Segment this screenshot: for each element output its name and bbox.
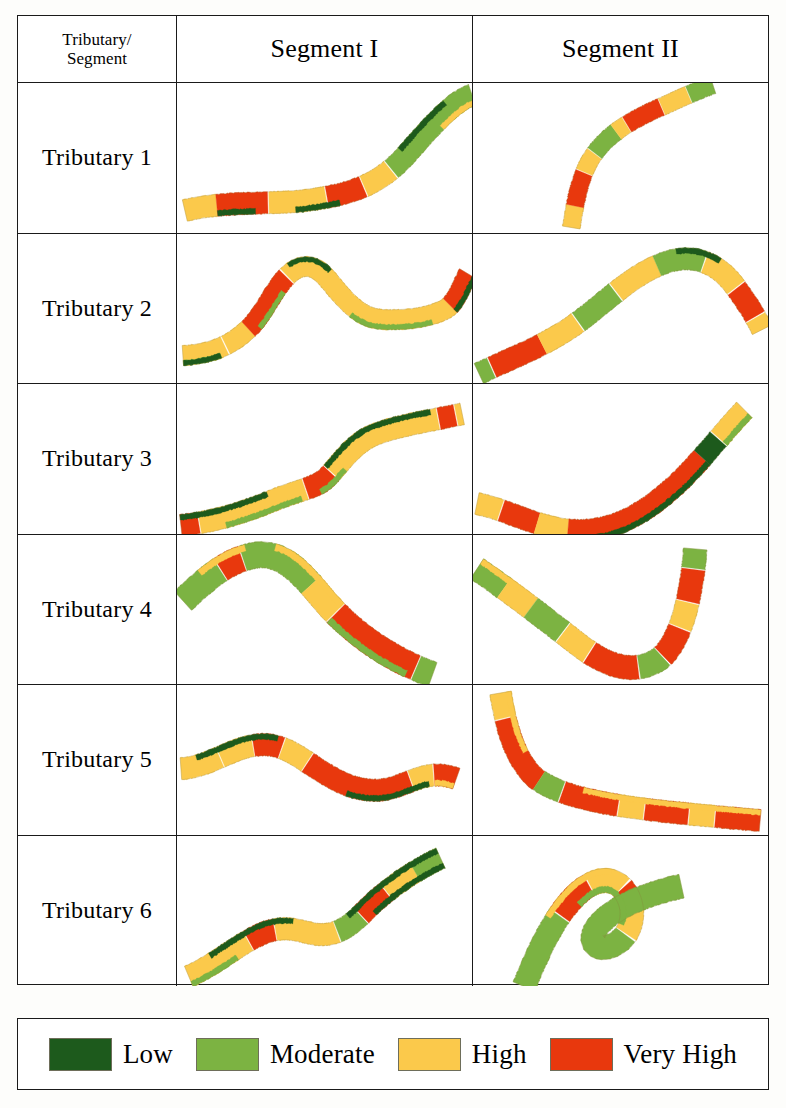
stream-band-very_high bbox=[437, 405, 457, 430]
header-corner-cell: Tributary/ Segment bbox=[18, 16, 177, 82]
legend-swatch-high bbox=[398, 1038, 461, 1071]
table-row: Tributary 6 bbox=[18, 836, 768, 987]
table-row: Tributary 5 bbox=[18, 685, 768, 836]
table-row: Tributary 2 bbox=[18, 234, 768, 385]
stream-band-very_high bbox=[495, 716, 545, 789]
stream-reach-diagram bbox=[177, 685, 472, 835]
stream-bands bbox=[180, 733, 460, 801]
diagram-cell-segment-2-row-1 bbox=[473, 83, 768, 233]
stream-band-moderate bbox=[681, 547, 707, 569]
table-header-row: Tributary/ Segment Segment I Segment II bbox=[18, 16, 768, 83]
stream-band-very_high bbox=[623, 99, 665, 132]
diagram-cell-segment-1-row-2 bbox=[177, 234, 473, 384]
stream-band-high bbox=[184, 931, 253, 986]
table-row: Tributary 1 bbox=[18, 83, 768, 234]
stream-reach-diagram bbox=[177, 836, 472, 987]
diagram-cell-segment-1-row-3 bbox=[177, 384, 473, 534]
header-corner-text: Tributary/ Segment bbox=[62, 30, 131, 68]
legend-label-low: Low bbox=[123, 1039, 173, 1070]
row-label-text: Tributary 4 bbox=[42, 596, 152, 623]
stream-bands bbox=[180, 403, 465, 534]
header-corner-line1: Tributary/ bbox=[62, 30, 131, 49]
stream-reach-diagram bbox=[473, 836, 768, 987]
stream-bands bbox=[562, 83, 715, 229]
row-label-cell-5: Tributary 5 bbox=[18, 685, 177, 835]
stream-reach-diagram bbox=[177, 234, 472, 384]
row-label-cell-6: Tributary 6 bbox=[18, 836, 177, 987]
stream-bands bbox=[177, 541, 437, 684]
stream-band-high bbox=[610, 255, 661, 300]
row-label-cell-2: Tributary 2 bbox=[18, 234, 177, 384]
legend-label-very-high: Very High bbox=[624, 1039, 738, 1070]
legend-item: Low bbox=[49, 1038, 173, 1071]
stream-band-very_high bbox=[583, 642, 639, 679]
row-label-text: Tributary 1 bbox=[42, 144, 152, 171]
row-label-text: Tributary 3 bbox=[42, 445, 152, 472]
legend-item: High bbox=[398, 1038, 527, 1071]
legend-swatch-very-high bbox=[550, 1038, 613, 1071]
row-label-cell-3: Tributary 3 bbox=[18, 384, 177, 534]
header-segment-2-label: Segment II bbox=[562, 34, 679, 64]
stream-bands bbox=[513, 868, 684, 986]
diagram-cell-segment-2-row-6 bbox=[473, 836, 768, 987]
stream-band-high bbox=[280, 256, 457, 330]
tributary-segment-matrix: Tributary/ Segment Segment I Segment II … bbox=[17, 15, 769, 985]
header-corner-line2: Segment bbox=[62, 49, 131, 68]
row-label-text: Tributary 2 bbox=[42, 295, 152, 322]
stream-reach-diagram bbox=[177, 384, 472, 534]
row-label-cell-4: Tributary 4 bbox=[18, 535, 177, 685]
legend: Low Moderate High Very High bbox=[17, 1018, 769, 1090]
stream-band-very_high bbox=[488, 334, 547, 377]
stream-band-high bbox=[475, 493, 504, 521]
stream-reach-diagram bbox=[177, 83, 472, 233]
table-body: Tributary 1Tributary 2Tributary 3Tributa… bbox=[18, 83, 768, 986]
diagram-cell-segment-2-row-5 bbox=[473, 685, 768, 835]
stream-band-moderate bbox=[513, 908, 569, 986]
stream-reach-diagram bbox=[473, 685, 768, 835]
stream-bands bbox=[475, 402, 753, 533]
diagram-cell-segment-2-row-4 bbox=[473, 535, 768, 685]
diagram-cell-segment-1-row-1 bbox=[177, 83, 473, 233]
diagram-cell-segment-1-row-5 bbox=[177, 685, 473, 835]
header-segment-2-cell: Segment II bbox=[473, 16, 768, 82]
legend-swatch-moderate bbox=[196, 1038, 259, 1071]
legend-item: Very High bbox=[550, 1038, 738, 1071]
legend-label-high: High bbox=[472, 1039, 527, 1070]
stream-condition-figure: Tributary/ Segment Segment I Segment II … bbox=[0, 0, 786, 1108]
stream-reach-diagram bbox=[473, 83, 768, 233]
diagram-cell-segment-2-row-3 bbox=[473, 384, 768, 534]
legend-item: Moderate bbox=[196, 1038, 375, 1071]
diagram-cell-segment-1-row-6 bbox=[177, 836, 473, 987]
stream-bands bbox=[182, 256, 472, 366]
stream-band-very_high bbox=[327, 604, 421, 679]
stream-bands bbox=[182, 84, 472, 221]
legend-label-moderate: Moderate bbox=[270, 1039, 375, 1070]
stream-bands bbox=[490, 691, 761, 831]
stream-bands bbox=[184, 847, 445, 986]
stream-band-moderate bbox=[385, 84, 472, 177]
legend-swatch-low bbox=[49, 1038, 112, 1071]
table-row: Tributary 3 bbox=[18, 384, 768, 535]
row-label-text: Tributary 6 bbox=[42, 897, 152, 924]
stream-reach-diagram bbox=[473, 384, 768, 534]
stream-bands bbox=[474, 247, 768, 383]
stream-band-high bbox=[198, 479, 309, 533]
diagram-cell-segment-2-row-2 bbox=[473, 234, 768, 384]
header-segment-1-label: Segment I bbox=[271, 34, 379, 64]
row-label-cell-1: Tributary 1 bbox=[18, 83, 177, 233]
table-row: Tributary 4 bbox=[18, 535, 768, 686]
stream-reach-diagram bbox=[473, 535, 768, 685]
diagram-cell-segment-1-row-4 bbox=[177, 535, 473, 685]
stream-reach-diagram bbox=[473, 234, 768, 384]
row-label-text: Tributary 5 bbox=[42, 746, 152, 773]
stream-band-very_high bbox=[242, 269, 294, 336]
stream-reach-diagram bbox=[177, 535, 472, 685]
header-segment-1-cell: Segment I bbox=[177, 16, 473, 82]
